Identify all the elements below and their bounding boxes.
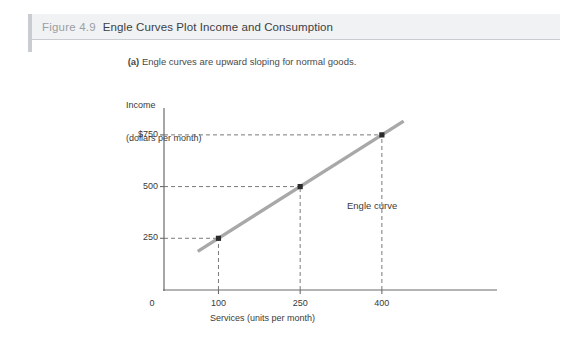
figure-container: Figure 4.9 Engle Curves Plot Income and … bbox=[0, 0, 568, 351]
x-tick-label-0: 100 bbox=[202, 298, 234, 308]
x-tick-label-2: 400 bbox=[366, 298, 398, 308]
data-point-0 bbox=[216, 236, 221, 241]
y-tick-label-1: 500 bbox=[118, 181, 158, 191]
origin-tick-label: 0 bbox=[146, 298, 158, 308]
figure-header: Figure 4.9 Engle Curves Plot Income and … bbox=[32, 14, 560, 40]
figure-title: Engle Curves Plot Income and Consumption bbox=[103, 21, 333, 33]
guide-lines-group bbox=[164, 135, 382, 290]
figure-panel-body: (a) Engle curves are upward sloping for … bbox=[32, 40, 560, 345]
data-point-1 bbox=[298, 184, 303, 189]
y-tick-label-0: 250 bbox=[118, 232, 158, 242]
figure-number: Figure 4.9 bbox=[42, 21, 96, 33]
y-tick-label-2: $750 bbox=[118, 129, 158, 139]
data-point-2 bbox=[379, 132, 384, 137]
x-tick-label-1: 250 bbox=[284, 298, 316, 308]
axis-ticks-group bbox=[160, 135, 382, 294]
axes-group bbox=[163, 108, 497, 291]
